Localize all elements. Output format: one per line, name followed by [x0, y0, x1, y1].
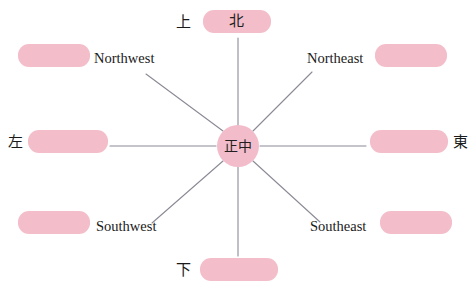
label-zuo: 左: [8, 135, 23, 150]
answer-pill-northeast[interactable]: [375, 44, 447, 67]
answer-pill-northwest[interactable]: [18, 44, 90, 67]
label-southwest: Southwest: [96, 219, 156, 234]
answer-pill-north[interactable]: 北: [203, 10, 271, 33]
label-dong: 東: [453, 135, 468, 150]
label-northeast: Northeast: [307, 51, 363, 66]
spoke-southeast: [253, 161, 320, 222]
spoke-northwest: [146, 74, 223, 131]
spoke-southwest: [152, 161, 223, 223]
spoke-northeast: [253, 72, 312, 131]
answer-pill-east[interactable]: [370, 130, 448, 153]
answer-pill-west[interactable]: [28, 130, 108, 153]
direction-diagram: 正中 北 上 下 左 東 Northwest Northeast Southwe…: [0, 0, 476, 291]
label-xia: 下: [176, 263, 191, 278]
answer-pill-south[interactable]: [200, 258, 278, 281]
label-southeast: Southeast: [310, 219, 366, 234]
center-node[interactable]: 正中: [217, 125, 259, 167]
label-northwest: Northwest: [94, 51, 154, 66]
label-shang: 上: [176, 15, 191, 30]
answer-pill-southeast[interactable]: [380, 211, 452, 234]
answer-pill-southwest[interactable]: [18, 211, 90, 234]
